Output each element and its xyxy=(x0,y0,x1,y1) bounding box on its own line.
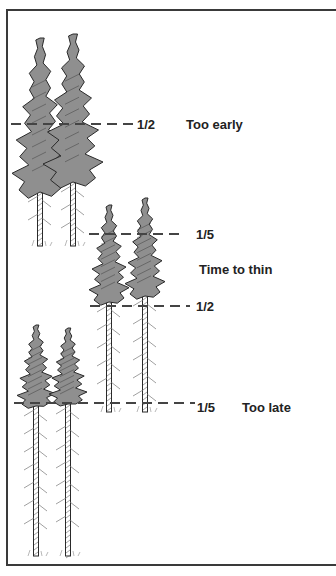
fraction-label-time-to-thin-fifth: 1/5 xyxy=(196,228,214,241)
fraction-label-too-early-half: 1/2 xyxy=(137,118,155,131)
tree-trunk xyxy=(34,392,39,556)
fraction-label-too-late-fifth: 1/5 xyxy=(197,401,215,414)
fraction-label-time-to-thin-half: 1/2 xyxy=(196,300,214,313)
stage-label-too-early: Too early xyxy=(186,118,243,131)
stage-label-time-to-thin: Time to thin xyxy=(199,263,272,276)
stage-label-too-late: Too late xyxy=(242,401,291,414)
